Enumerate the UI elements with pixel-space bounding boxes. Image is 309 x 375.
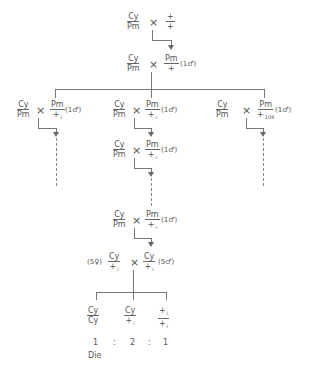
connector-line [246, 118, 247, 128]
allele-top: Cy [113, 140, 125, 150]
genotype-female-cross1: Cy Pm [126, 12, 141, 31]
allele-subscript: i [152, 266, 153, 272]
genotype-female-cross5: Cy +i [108, 252, 120, 274]
progeny-fate-label: Die [88, 351, 101, 360]
branch-line [133, 292, 134, 300]
genotype-female-branch-right: Cy Pm [215, 100, 230, 119]
allele-bottom: Pm [126, 22, 141, 31]
ratio-value-3: 1 [163, 338, 168, 347]
cross-symbol: × [36, 105, 45, 116]
allele-top: Pm [145, 100, 160, 110]
genotype-female-cross2: Cy Pm [126, 54, 141, 73]
allele-symbol: + [257, 110, 264, 119]
genotype-male-branch-left: Pm +i [50, 100, 65, 122]
allele-top: Pm [50, 100, 65, 110]
continuation-line [151, 178, 152, 206]
allele-top: Cy [108, 252, 120, 262]
allele-bottom: +i [158, 319, 169, 331]
arrow-down-icon [148, 132, 154, 137]
genotype-male-cross2: Pm + [164, 54, 179, 73]
connector-line [152, 30, 153, 40]
arrow-down-icon [148, 172, 154, 177]
count-note: (1♂) [161, 146, 177, 154]
allele-bottom: +i [125, 316, 136, 328]
allele-subscript: i [167, 323, 168, 329]
branch-line [55, 89, 265, 90]
connector-line [151, 72, 152, 89]
genotype-male-cross5: Cy +i [143, 252, 155, 274]
arrow-down-icon [260, 132, 266, 137]
genotype-male-branch-middle: Pm +i [145, 100, 160, 122]
genotype-female-cross3: Cy Pm [112, 140, 127, 159]
ratio-value-2: 2 [130, 338, 135, 347]
branch-line [96, 292, 97, 300]
allele-subscript: i [117, 266, 118, 272]
progeny-genotype-1: Cy Cy [87, 306, 99, 325]
connector-line [38, 128, 56, 129]
allele-bottom: + [167, 64, 176, 73]
cross-symbol: × [149, 17, 158, 28]
allele-symbol: + [148, 110, 155, 119]
cross-symbol: × [130, 257, 139, 268]
allele-bottom: +i [144, 262, 155, 274]
allele-bottom: Pm [215, 110, 230, 119]
allele-bottom: Cy [87, 316, 99, 325]
allele-subscript: i [133, 320, 134, 326]
count-note: (5♂) [158, 258, 174, 266]
continuation-line [263, 138, 264, 186]
connector-line [134, 238, 151, 239]
allele-bottom: Pm [112, 150, 127, 159]
allele-symbol: + [159, 319, 166, 328]
branch-line [96, 292, 167, 293]
cross-symbol: × [132, 215, 141, 226]
count-note: (1♂) [161, 216, 177, 224]
cross-symbol: × [132, 105, 141, 116]
allele-top: Pm [145, 210, 160, 220]
allele-subscript: i [167, 310, 168, 316]
allele-top: Cy [124, 306, 136, 316]
arrow-down-icon [168, 45, 174, 50]
allele-subscript: i [155, 114, 156, 120]
allele-subscript: i [155, 224, 156, 230]
arrow-down-icon [53, 132, 59, 137]
genotype-male-cross1: + + [166, 12, 175, 31]
allele-top: Cy [113, 100, 125, 110]
connector-line [152, 40, 171, 41]
allele-top: Cy [143, 252, 155, 262]
allele-bottom: +i [109, 262, 120, 274]
allele-top: Cy [17, 100, 29, 110]
allele-bottom: Pm [126, 64, 141, 73]
allele-bottom: Pm [16, 110, 31, 119]
allele-symbol: + [148, 150, 155, 159]
allele-subscript: i [155, 154, 156, 160]
ratio-value-1: 1 [93, 338, 98, 347]
allele-symbol: + [126, 316, 133, 325]
arrow-down-icon [148, 242, 154, 247]
genotype-male-cross4: Pm +i [145, 210, 160, 232]
allele-top: Cy [113, 210, 125, 220]
genotype-male-cross3: Pm +i [145, 140, 160, 162]
ratio-separator: : [148, 338, 151, 347]
count-note: (1♂) [65, 106, 81, 114]
connector-line [134, 118, 135, 128]
allele-bottom: Pm [112, 220, 127, 229]
branch-line [55, 89, 56, 98]
allele-subscript: 104 [265, 114, 275, 120]
progeny-genotype-2: Cy +i [124, 306, 136, 328]
branch-line [166, 292, 167, 300]
allele-top: Pm [258, 100, 273, 110]
allele-bottom: + [166, 22, 175, 31]
count-note: (1♂) [180, 60, 196, 68]
allele-bottom: +104 [256, 110, 275, 122]
ratio-separator: : [113, 338, 116, 347]
allele-symbol: + [53, 110, 60, 119]
progeny-genotype-3: +i +i [158, 306, 169, 331]
connector-line [134, 228, 135, 238]
count-note: (1♂) [275, 106, 291, 114]
allele-top: Pm [145, 140, 160, 150]
genotype-female-branch-middle: Cy Pm [112, 100, 127, 119]
cross-symbol: × [132, 145, 141, 156]
allele-symbol: + [110, 262, 117, 271]
branch-line [151, 89, 152, 98]
allele-top: Pm [164, 54, 179, 64]
